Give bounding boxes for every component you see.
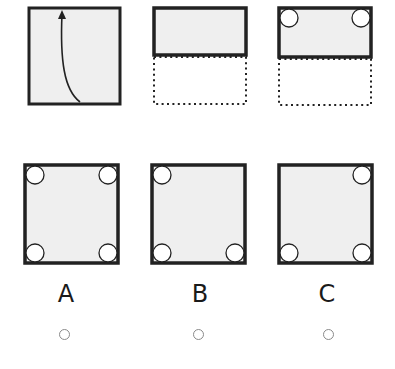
option-a-figure — [25, 165, 118, 263]
option-b-radio[interactable] — [193, 329, 204, 340]
step-3-punched — [279, 8, 371, 105]
option-a-radio[interactable] — [59, 329, 70, 340]
option-c-radio[interactable] — [323, 329, 334, 340]
step-1-square — [29, 8, 120, 104]
hole-top-left — [280, 9, 298, 27]
option-a-label: A — [46, 280, 86, 308]
dotted-unfolded-half — [154, 57, 246, 104]
hole-top-right — [352, 9, 370, 27]
option-b-label: B — [180, 280, 220, 308]
dotted-unfolded-half — [279, 59, 371, 105]
puzzle-figure — [0, 0, 395, 369]
option-c-label: C — [307, 280, 347, 308]
step-2-folded — [154, 8, 246, 104]
option-b-figure — [152, 165, 245, 263]
option-c-figure — [279, 165, 372, 263]
